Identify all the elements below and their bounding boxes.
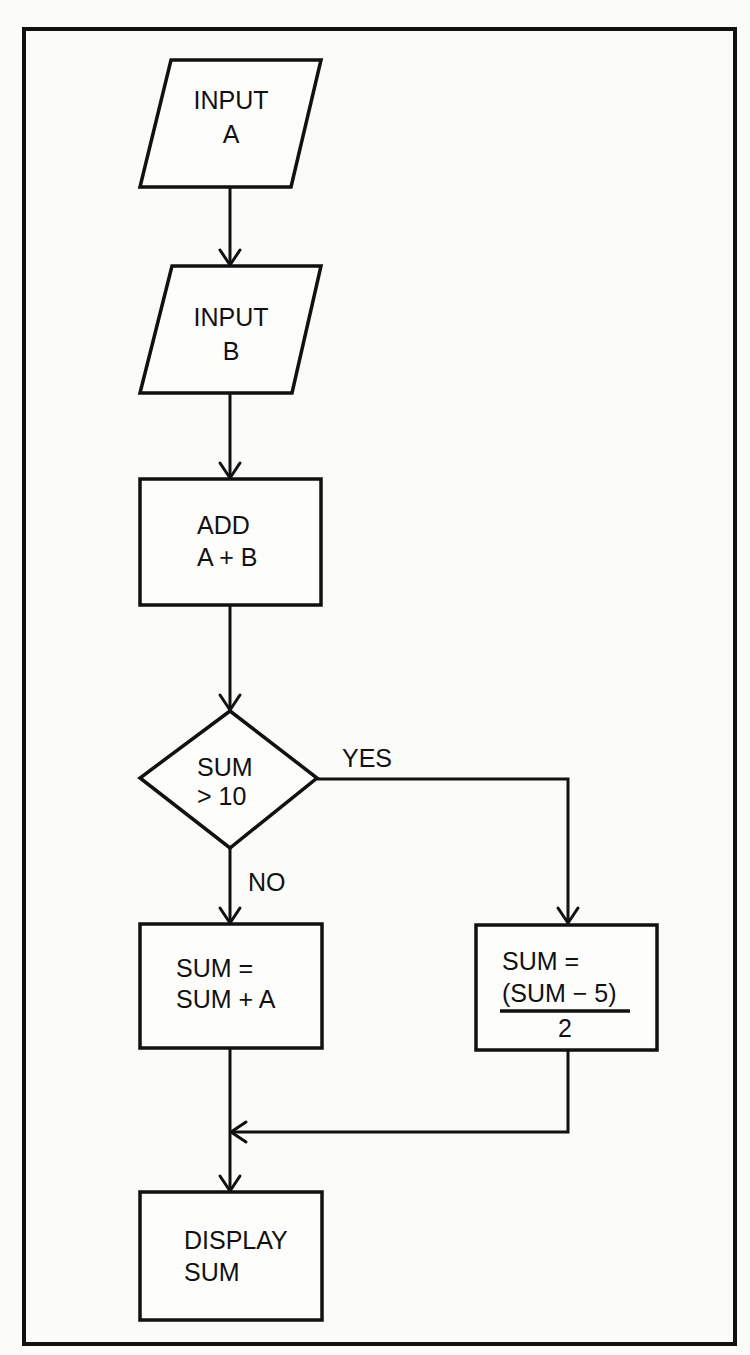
process-box <box>140 1192 322 1320</box>
edge-merge-to-display <box>220 1048 568 1191</box>
node-display-line-2: SUM <box>184 1258 240 1286</box>
node-add: ADD A + B <box>140 479 321 605</box>
node-sum-plus-a-line-1: SUM = <box>176 954 253 982</box>
node-input-b-line-1: INPUT <box>194 303 269 331</box>
node-add-line-2: A + B <box>197 543 257 571</box>
node-input-b-line-2: B <box>223 337 240 365</box>
node-sum-minus-5-numerator: (SUM − 5) <box>502 979 617 1007</box>
edge-input-a-to-input-b <box>220 187 240 265</box>
yes-label: YES <box>342 744 392 772</box>
node-sum-plus-a-line-2: SUM + A <box>176 985 276 1013</box>
no-label: NO <box>248 868 286 896</box>
node-input-a: INPUT A <box>140 60 321 187</box>
edge-input-b-to-add <box>220 393 240 478</box>
edge-add-to-decision <box>220 605 240 710</box>
flowchart-diagram: INPUT A INPUT B ADD A + B SUM > 10 YES <box>0 0 750 1355</box>
node-add-line-1: ADD <box>197 511 250 539</box>
node-decision: SUM > 10 <box>140 711 317 848</box>
node-sum-minus-5-denominator: 2 <box>558 1014 572 1042</box>
node-sum-minus-5-half: SUM = (SUM − 5) 2 <box>476 925 657 1050</box>
process-box <box>140 479 321 605</box>
node-sum-plus-a: SUM = SUM + A <box>140 924 322 1048</box>
edge-decision-no: NO <box>220 848 286 923</box>
node-sum-minus-5-line-1: SUM = <box>502 947 579 975</box>
node-input-a-line-1: INPUT <box>194 86 269 114</box>
node-input-a-line-2: A <box>223 120 240 148</box>
node-input-b: INPUT B <box>140 266 321 393</box>
edge-decision-yes: YES <box>317 744 578 923</box>
diagram-frame <box>24 29 735 1344</box>
node-decision-line-2: > 10 <box>197 782 246 810</box>
node-decision-line-1: SUM <box>197 753 253 781</box>
node-display: DISPLAY SUM <box>140 1192 322 1320</box>
node-display-line-1: DISPLAY <box>184 1226 288 1254</box>
